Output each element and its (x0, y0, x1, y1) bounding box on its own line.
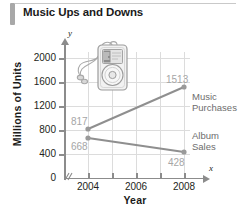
data-label-music-purchases-2008: 1513 (166, 74, 188, 85)
legend-item-music-purchases-line1: Music (192, 92, 217, 103)
data-label-music-purchases-2004: 817 (71, 116, 88, 127)
data-point-marker (85, 126, 90, 131)
data-point-marker (181, 84, 186, 89)
legend-item-music-purchases-line2: Purchases (192, 103, 237, 114)
data-point-marker (181, 149, 186, 154)
data-point-marker (85, 135, 90, 140)
series-line-album-sales (88, 138, 184, 152)
legend-item-album-sales-line2: Sales (192, 142, 216, 153)
data-label-album-sales-2004: 668 (71, 141, 88, 152)
series-line-music-purchases (88, 87, 184, 129)
chart-card: Music Ups and Downs (0, 0, 244, 214)
legend-item-album-sales-line1: Album (192, 131, 219, 142)
data-label-album-sales-2008: 428 (168, 157, 185, 168)
